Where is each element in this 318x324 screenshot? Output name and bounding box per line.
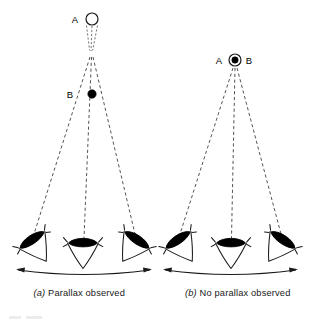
panel-a-upper-rays [87,26,98,52]
eye-icon-right [106,224,156,272]
eye-icon-left [13,224,63,272]
star-b-label: B [67,89,73,100]
parallax-figure: A B [0,0,317,324]
caption-panel-b: (b) No parallax observed [159,288,318,308]
page-edge-artifact [8,314,54,321]
star-a-label: A [216,55,223,66]
sight-line-right [93,57,135,234]
caption-row: (a) Parallax observed (b) No parallax ob… [0,288,317,308]
baseline-arrow-right [143,268,152,273]
baseline-arc [165,270,296,275]
baseline-arc [18,270,150,275]
panel-b-sight-lines [180,68,281,238]
eye-icon-left [159,224,209,272]
eye-icon-center [211,238,251,269]
caption-text-b: No parallax observed [200,288,291,298]
baseline-arrow-left [16,268,25,273]
panel-a-sight-lines [34,57,135,238]
diagram-canvas: A B [0,0,317,324]
upper-ray-right [93,26,98,51]
caption-tag-b: (b) [185,288,197,298]
panel-a: A B [13,13,157,275]
sight-line-right [237,68,281,234]
sight-line-left [34,57,90,234]
star-b-marker [88,90,96,98]
sight-line-center [84,57,92,238]
eye-icon-right [252,224,302,272]
star-a-marker [86,13,98,25]
baseline-arrow-left [163,268,172,273]
star-b-label: B [246,55,252,66]
caption-text-a: Parallax observed [48,288,125,298]
panel-a-baseline [16,268,152,275]
sight-line-left [180,68,233,234]
baseline-arrow-right [289,268,298,273]
eye-icon-center [63,238,103,269]
upper-ray-left [87,26,90,51]
upper-ray-center [91,26,92,51]
star-b-marker [232,57,238,63]
sight-line-center [232,68,236,238]
star-a-label: A [72,14,79,25]
panel-b: A B [159,54,303,275]
caption-panel-a: (a) Parallax observed [0,288,159,308]
caption-tag-a: (a) [33,288,45,298]
